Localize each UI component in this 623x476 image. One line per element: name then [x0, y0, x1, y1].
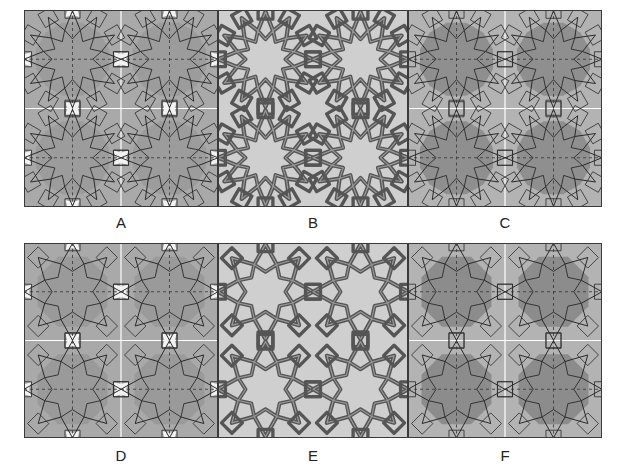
panel-label-b: B: [298, 214, 328, 231]
pattern-construction-shaded: [408, 243, 602, 438]
panel-b: [218, 10, 408, 207]
pattern-interlace: [218, 10, 408, 207]
panel-e: [218, 243, 408, 438]
panel-label-a: A: [106, 214, 136, 231]
panel-a: [24, 10, 218, 207]
pattern-interlace: [218, 243, 408, 438]
pattern-construction: [24, 243, 218, 438]
panel-label-d: D: [106, 447, 136, 464]
pattern-construction-shaded: [408, 10, 602, 207]
panel-d: [24, 243, 218, 438]
pattern-construction: [24, 10, 218, 207]
panel-c: [408, 10, 602, 207]
panel-label-f: F: [490, 447, 520, 464]
panel-label-c: C: [490, 214, 520, 231]
panel-label-e: E: [298, 447, 328, 464]
panel-f: [408, 243, 602, 438]
